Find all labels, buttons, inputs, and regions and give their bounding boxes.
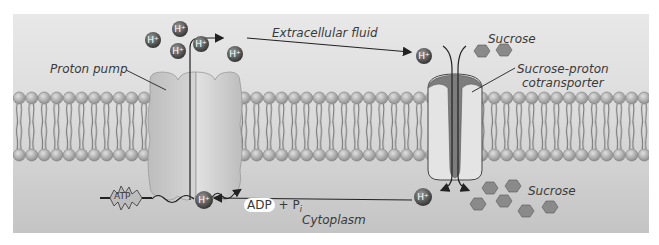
sucrose-proton-cotransporter bbox=[428, 74, 482, 180]
svg-text:H⁺: H⁺ bbox=[172, 46, 184, 56]
svg-text:H⁺: H⁺ bbox=[417, 192, 429, 202]
label-sucrose-top: Sucrose bbox=[488, 32, 536, 46]
label-sucrose-bottom: Sucrose bbox=[528, 184, 576, 198]
label-atp: ATP bbox=[114, 191, 130, 201]
svg-text:H⁺: H⁺ bbox=[195, 39, 207, 49]
label-pi-sub: i bbox=[300, 205, 302, 214]
lipid-bilayer bbox=[13, 90, 649, 162]
label-extracellular-fluid: Extracellular fluid bbox=[272, 26, 378, 40]
label-cotransporter-line1: Sucrose-proton bbox=[517, 62, 609, 76]
proton-pump-cotransport-diagram: H⁺ H⁺ H⁺ H⁺ H⁺ H⁺ H⁺ H⁺ Extracellular fl… bbox=[0, 0, 659, 245]
proton-pump-protein bbox=[148, 72, 242, 200]
label-adp: ADP bbox=[244, 198, 275, 212]
label-cotransporter: Sucrose-proton cotransporter bbox=[517, 62, 609, 90]
svg-text:H⁺: H⁺ bbox=[147, 35, 159, 45]
label-pi: P bbox=[292, 198, 299, 212]
adp-pi-products: ADP + Pi bbox=[244, 198, 302, 214]
label-proton-pump: Proton pump bbox=[50, 62, 128, 76]
svg-text:H⁺: H⁺ bbox=[174, 24, 186, 34]
label-cytoplasm: Cytoplasm bbox=[302, 213, 366, 227]
svg-text:H⁺: H⁺ bbox=[418, 51, 430, 61]
label-plus: + bbox=[279, 198, 289, 212]
label-cotransporter-line2: cotransporter bbox=[517, 76, 609, 90]
svg-text:H⁺: H⁺ bbox=[229, 49, 241, 59]
svg-text:H⁺: H⁺ bbox=[198, 195, 210, 205]
